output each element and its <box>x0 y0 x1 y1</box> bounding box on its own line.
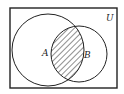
set-b-label: B <box>83 50 91 60</box>
universe-label: U <box>106 13 114 23</box>
venn-diagram: U A B <box>0 0 124 94</box>
set-a-label: A <box>41 48 49 58</box>
